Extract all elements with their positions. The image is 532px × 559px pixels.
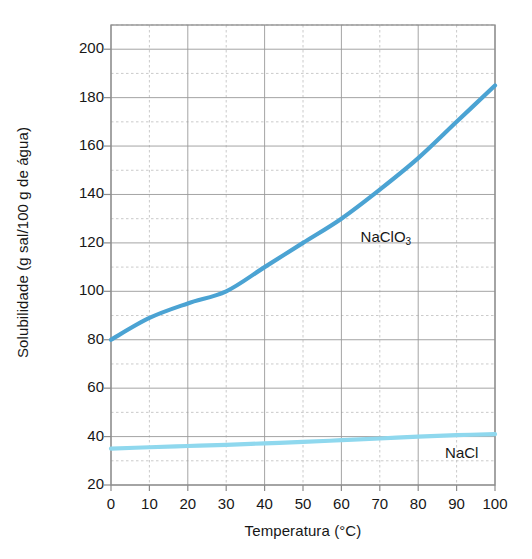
solubility-chart: 20406080100120140160180200 0102030405060… [0, 0, 532, 559]
x-tick-label: 80 [410, 495, 427, 512]
x-tick-label: 60 [333, 495, 350, 512]
x-tick-label: 40 [256, 495, 273, 512]
x-tick-label: 30 [218, 495, 235, 512]
x-tick-label: 50 [295, 495, 312, 512]
x-tick-label: 90 [448, 495, 465, 512]
series-annotation-nacl: NaCl [445, 444, 478, 461]
x-tick-label: 0 [107, 495, 115, 512]
series-annotation-naclo3: NaClO3 [361, 228, 412, 245]
x-tick-label: 20 [179, 495, 196, 512]
x-tick-label: 10 [141, 495, 158, 512]
x-axis-title-text: Temperatura (°C) [245, 522, 362, 539]
y-axis-title: Solubilidade (g sal/100 g de água) [0, 0, 46, 485]
x-tick-label: 100 [482, 495, 507, 512]
y-axis-title-text: Solubilidade (g sal/100 g de água) [15, 127, 32, 358]
x-axis-title: Temperatura (°C) [111, 522, 495, 540]
x-axis-tick-labels: 0102030405060708090100 [0, 0, 532, 559]
x-tick-label: 70 [371, 495, 388, 512]
